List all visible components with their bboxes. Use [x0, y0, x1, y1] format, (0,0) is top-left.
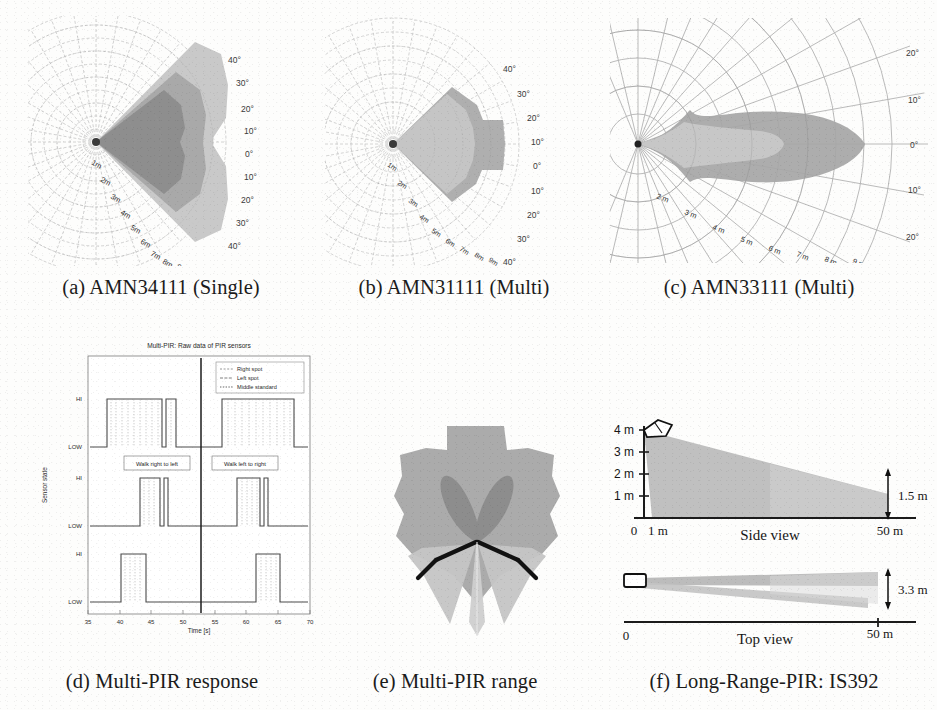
- svg-text:30°: 30°: [236, 78, 249, 88]
- svg-text:20°: 20°: [241, 104, 254, 114]
- side-view-group: 4 m 3 m 2 m 1 m: [614, 420, 928, 543]
- side-view-y-labels: 4 m 3 m 2 m 1 m: [614, 423, 634, 503]
- y-tick-low-2: LOW: [68, 523, 82, 529]
- y-tick-low-1: LOW: [68, 444, 82, 450]
- figure-row-top: 40° 30° 20° 10° 0° 10° 20° 30° 40° 1m 2m…: [0, 0, 937, 305]
- panel-c-amn33111: 20° 10° 0° 10° 20° 2 m 3 m 4 m 5 m 6 m 7…: [610, 18, 930, 263]
- svg-text:3 m: 3 m: [614, 445, 634, 459]
- svg-text:4m: 4m: [418, 213, 430, 224]
- annotation-text-2: Walk left to right: [224, 461, 266, 467]
- angle-labels-a: 40° 30° 20° 10° 0° 10° 20° 30° 40°: [228, 55, 257, 251]
- y-tick-hi-1: HI: [76, 396, 82, 402]
- figure-root: 40° 30° 20° 10° 0° 10° 20° 30° 40° 1m 2m…: [0, 0, 937, 710]
- svg-text:0°: 0°: [910, 140, 918, 150]
- legend-label-middle-standard: Middle standard: [237, 384, 277, 390]
- svg-text:1 m: 1 m: [614, 489, 634, 503]
- svg-text:0°: 0°: [533, 161, 541, 171]
- svg-text:6 m: 6 m: [767, 244, 782, 257]
- svg-text:3m: 3m: [109, 192, 123, 205]
- svg-text:10°: 10°: [531, 186, 544, 196]
- svg-text:10°: 10°: [908, 185, 921, 195]
- svg-text:3m: 3m: [407, 197, 419, 208]
- panel-a-amn34111: 40° 30° 20° 10° 0° 10° 20° 30° 40° 1m 2m…: [28, 16, 318, 266]
- top-view-x-far-label: 50 m: [867, 626, 893, 641]
- svg-text:40°: 40°: [503, 257, 516, 266]
- svg-text:2 m: 2 m: [614, 467, 634, 481]
- radial-labels-c: 2 m 3 m 4 m 5 m 6 m 7 m 8 m 9 m: [655, 192, 866, 263]
- chart-title-d: Multi-PIR: Raw data of PIR sensors: [147, 342, 251, 349]
- svg-text:10°: 10°: [908, 95, 921, 105]
- multipir-range-diagram: [352, 408, 602, 658]
- svg-text:5m: 5m: [430, 227, 442, 238]
- annotation-walk-left-to-right: Walk left to right: [212, 456, 278, 470]
- panel-d-multipir-response: Multi-PIR: Raw data of PIR sensors Senso…: [28, 328, 328, 638]
- polar-chart-b: 40° 30° 20° 10° 0° 10° 20° 30° 40° 1m 2m…: [325, 16, 605, 266]
- svg-text:1m: 1m: [90, 158, 104, 171]
- x-axis-label-d: Time [s]: [188, 627, 211, 635]
- side-view-x-far-label: 50 m: [877, 523, 903, 538]
- svg-text:2m: 2m: [99, 175, 113, 188]
- svg-text:7m: 7m: [458, 245, 470, 256]
- figure-row-bottom: Multi-PIR: Raw data of PIR sensors Senso…: [0, 320, 937, 710]
- svg-text:8m: 8m: [161, 257, 175, 266]
- caption-e: (e) Multi-PIR range: [320, 670, 590, 693]
- svg-text:10m: 10m: [188, 265, 205, 266]
- svg-text:9 m: 9 m: [851, 257, 866, 263]
- caption-f: (f) Long-Range-PIR: IS392: [614, 670, 914, 693]
- svg-text:65: 65: [275, 619, 282, 625]
- svg-text:20°: 20°: [906, 232, 919, 242]
- legend-d: Right spot Left spot Middle standard: [216, 362, 304, 393]
- long-range-pir-diagram: 4 m 3 m 2 m 1 m: [600, 408, 930, 678]
- svg-text:60: 60: [243, 619, 250, 625]
- svg-text:6m: 6m: [444, 237, 456, 248]
- svg-text:10°: 10°: [244, 172, 257, 182]
- caption-d: (d) Multi-PIR response: [22, 670, 302, 693]
- y-tick-hi-3: HI: [76, 551, 82, 557]
- svg-text:40: 40: [117, 619, 124, 625]
- polar-origin-b: [389, 140, 397, 148]
- angle-labels-c: 20° 10° 0° 10° 20°: [906, 48, 921, 242]
- polar-chart-a: 40° 30° 20° 10° 0° 10° 20° 30° 40° 1m 2m…: [28, 16, 318, 266]
- side-view-beam-fade: [770, 464, 888, 518]
- svg-text:40°: 40°: [503, 64, 516, 74]
- response-chart: Multi-PIR: Raw data of PIR sensors Senso…: [28, 328, 328, 638]
- svg-text:55: 55: [212, 619, 219, 625]
- svg-text:5m: 5m: [129, 223, 143, 236]
- svg-text:30°: 30°: [236, 218, 249, 228]
- top-view-x-origin-label: 0: [623, 628, 630, 643]
- y-tick-low-3: LOW: [68, 599, 82, 605]
- panel-f-long-range-pir: 4 m 3 m 2 m 1 m: [600, 408, 930, 678]
- top-view-far-width-label: 3.3 m: [898, 582, 928, 597]
- svg-text:20°: 20°: [906, 48, 919, 58]
- sensor-housing-icon-side: [644, 420, 672, 437]
- zone-inner-b: [393, 94, 475, 194]
- legend-label-right-spot: Right spot: [237, 366, 263, 372]
- x-ticks-d: 35 40 45 50 55 60 65 70: [85, 619, 314, 625]
- svg-text:4 m: 4 m: [614, 423, 634, 437]
- side-view-x-origin-label: 0: [631, 523, 638, 538]
- svg-text:8m: 8m: [473, 251, 485, 262]
- svg-text:20°: 20°: [527, 113, 540, 123]
- caption-b: (b) AMN31111 (Multi): [324, 276, 584, 299]
- svg-text:0°: 0°: [245, 149, 253, 159]
- svg-text:30°: 30°: [517, 89, 530, 99]
- svg-text:9m: 9m: [175, 262, 189, 266]
- legend-label-left-spot: Left spot: [237, 375, 259, 381]
- svg-text:20°: 20°: [527, 210, 540, 220]
- svg-text:45: 45: [148, 619, 155, 625]
- svg-text:2m: 2m: [396, 179, 408, 190]
- polar-origin-c: [635, 141, 642, 148]
- svg-text:20°: 20°: [241, 195, 254, 205]
- caption-c: (c) AMN33111 (Multi): [624, 276, 894, 299]
- top-view-far-width-indicator: [885, 568, 891, 610]
- svg-text:70: 70: [307, 619, 314, 625]
- svg-text:6m: 6m: [139, 237, 153, 250]
- panel-b-amn31111: 40° 30° 20° 10° 0° 10° 20° 30° 40° 1m 2m…: [325, 16, 605, 266]
- svg-text:40°: 40°: [228, 55, 241, 65]
- caption-a: (a) AMN34111 (Single): [26, 276, 296, 299]
- svg-text:10°: 10°: [531, 137, 544, 147]
- polar-chart-c: 20° 10° 0° 10° 20° 2 m 3 m 4 m 5 m 6 m 7…: [610, 18, 930, 263]
- side-view-title: Side view: [740, 527, 800, 543]
- svg-text:4 m: 4 m: [711, 223, 726, 236]
- y-axis-label-d: Sensor state: [41, 467, 48, 503]
